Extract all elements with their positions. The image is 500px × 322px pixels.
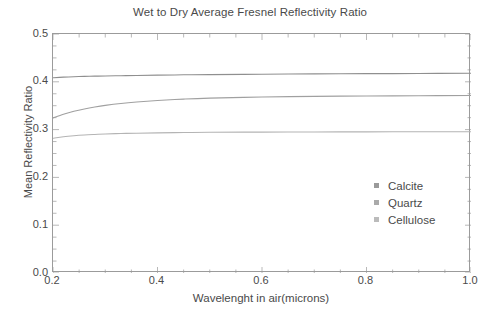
legend-item-calcite[interactable]: Calcite bbox=[374, 177, 435, 194]
y-tick-label: 0.5 bbox=[4, 28, 48, 39]
x-tick-label: 0.4 bbox=[127, 275, 187, 286]
plot-canvas bbox=[53, 34, 471, 273]
series-line-calcite bbox=[53, 73, 471, 77]
chart-figure: Wet to Dry Average Fresnel Reflectivity … bbox=[0, 0, 500, 322]
chart-title: Wet to Dry Average Fresnel Reflectivity … bbox=[0, 6, 500, 18]
legend-label: Cellulose bbox=[388, 214, 435, 226]
x-tick-label: 0.6 bbox=[231, 275, 291, 286]
chart-legend: CalciteQuartzCellulose bbox=[374, 177, 435, 228]
legend-label: Calcite bbox=[388, 180, 423, 192]
x-tick-label: 1.0 bbox=[440, 275, 500, 286]
series-line-cellulose bbox=[53, 132, 471, 139]
y-tick-label: 0.2 bbox=[4, 171, 48, 182]
legend-swatch-icon bbox=[374, 217, 379, 222]
series-line-quartz bbox=[53, 96, 471, 118]
legend-item-cellulose[interactable]: Cellulose bbox=[374, 211, 435, 228]
x-tick-label: 0.8 bbox=[336, 275, 396, 286]
x-tick-label: 0.2 bbox=[22, 275, 82, 286]
legend-item-quartz[interactable]: Quartz bbox=[374, 194, 435, 211]
x-axis-title: Wavelenght in air(microns) bbox=[52, 292, 470, 304]
legend-label: Quartz bbox=[388, 197, 423, 209]
y-tick-label: 0.3 bbox=[4, 123, 48, 134]
legend-swatch-icon bbox=[374, 200, 379, 205]
legend-swatch-icon bbox=[374, 183, 379, 188]
y-tick-label: 0.4 bbox=[4, 75, 48, 86]
y-tick-label: 0.1 bbox=[4, 219, 48, 230]
plot-area bbox=[52, 33, 470, 272]
y-axis-tick-labels: 0.00.10.20.30.40.5 bbox=[0, 0, 48, 322]
